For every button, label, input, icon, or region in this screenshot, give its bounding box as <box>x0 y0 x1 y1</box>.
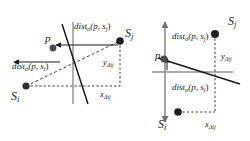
figure-vector-graphics <box>0 0 250 141</box>
figure-container: p disto(p, sj) disto(p, si) Si Sj yΔij x… <box>0 0 250 141</box>
right-point-si <box>174 108 182 116</box>
right-bisector-line <box>158 58 240 84</box>
left-point-si <box>22 82 29 89</box>
right-point-sj <box>211 30 219 38</box>
left-bisector-line <box>62 24 88 104</box>
left-diagram-graphics <box>14 22 124 104</box>
right-diagram-graphics <box>152 22 240 122</box>
right-point-p <box>160 55 167 62</box>
left-point-p <box>50 45 57 52</box>
left-point-sj <box>116 37 124 45</box>
